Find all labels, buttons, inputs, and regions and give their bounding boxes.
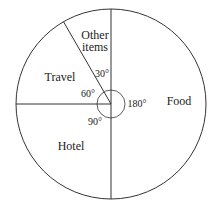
angle-label-180: 180°	[128, 98, 147, 109]
slice-label-food: Food	[167, 94, 192, 108]
angle-label-60: 60°	[81, 88, 95, 99]
pie-chart: Other items Travel Hotel Food 30° 60° 90…	[0, 0, 213, 204]
slice-label-other-line2: items	[82, 40, 108, 54]
slice-label-hotel: Hotel	[58, 139, 85, 153]
angle-label-90: 90°	[88, 116, 102, 127]
angle-label-30: 30°	[95, 68, 109, 79]
slice-label-travel: Travel	[45, 70, 77, 84]
